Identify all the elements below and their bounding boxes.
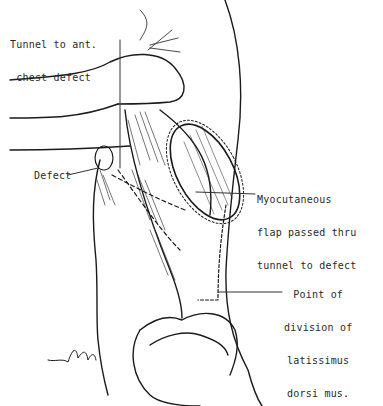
flap-suture-line [150, 108, 259, 237]
label-tunnel-line1: Tunnel to ant. [10, 39, 97, 50]
label-division: Point of division of latissimus dorsi mu… [284, 267, 352, 406]
arm-underside [10, 146, 130, 150]
label-flap-line2: flap passed thru [257, 227, 357, 238]
tunnel-path [112, 175, 185, 210]
label-flap-line1: Myocutaneous [257, 194, 357, 205]
label-division-line4: dorsi mus. [284, 388, 352, 399]
muscle-band-right [160, 110, 211, 215]
label-tunnel-line2: chest defect [10, 72, 97, 83]
hair-tuft [140, 10, 180, 52]
label-division-line2: division of [284, 322, 352, 333]
tunnel-path-2 [118, 170, 180, 250]
arm-outline-lower [10, 104, 118, 118]
label-defect: Defect [34, 170, 71, 181]
label-division-line1: Point of [284, 289, 352, 300]
hip-inner [150, 333, 228, 355]
chest-defect [95, 146, 113, 170]
flap-leader [196, 192, 255, 194]
defect-leader [68, 168, 98, 175]
flap-illustration: Tunnel to ant. chest defect Defect Myocu… [0, 0, 383, 406]
leader-lines [68, 40, 282, 292]
artist-signature [48, 350, 96, 362]
buttock-outline [133, 330, 200, 406]
hip-outline [140, 313, 237, 375]
label-tunnel: Tunnel to ant. chest defect [10, 17, 97, 105]
label-division-line3: latissimus [284, 355, 352, 366]
